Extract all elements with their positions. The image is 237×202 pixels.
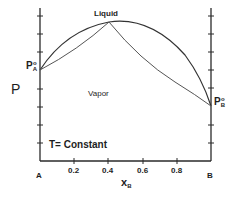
pa-sup: o — [33, 60, 37, 66]
point-label-pa: PAo — [26, 61, 41, 71]
pa-sub: A — [33, 66, 37, 72]
annotation-constant-temperature: T= Constant — [49, 140, 107, 150]
pb-main: P — [214, 96, 221, 107]
x-tick-label-0-2: 0.2 — [68, 167, 79, 175]
y-axis-label: P — [11, 82, 20, 96]
liquid-curve — [40, 21, 211, 106]
region-label-vapor: Vapor — [88, 90, 109, 98]
x-axis-sub: B — [127, 183, 131, 189]
x-end-label-a: A — [36, 172, 42, 180]
x-tick-label-0-8: 0.8 — [171, 167, 182, 175]
x-axis-label: xB — [121, 177, 131, 188]
pb-sub: B — [221, 102, 225, 108]
x-tick-label-0-4: 0.4 — [102, 167, 113, 175]
x-end-label-b: B — [207, 172, 213, 180]
region-label-liquid: Liquid — [94, 10, 118, 18]
point-label-pb: PBo — [214, 97, 229, 107]
pa-main: P — [26, 60, 33, 71]
vapor-curve — [40, 22, 211, 106]
x-tick-label-0-6: 0.6 — [137, 167, 148, 175]
pb-sup: o — [221, 96, 225, 102]
